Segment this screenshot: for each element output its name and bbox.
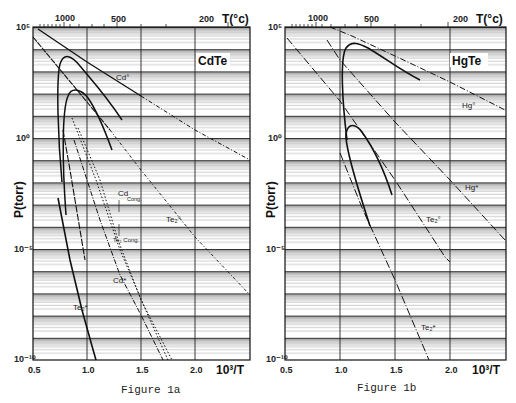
top-axis-label: T(°c): [222, 12, 249, 26]
x-axis-label: 10³/T: [472, 363, 501, 377]
figure-caption: Figure 1b: [357, 382, 416, 394]
label-te2-star: Te₂*: [421, 323, 436, 332]
top-tick-500: 500: [111, 14, 126, 24]
y-tick-1e-5: 10⁻⁵: [266, 244, 285, 254]
plot-area-grid: [285, 27, 506, 360]
y-tick-1e0: 10⁰: [16, 133, 30, 143]
top-tick-1000: 1000: [308, 13, 328, 23]
label-cd-star: Cd*: [113, 276, 126, 285]
label-te2-0: Te₂°: [166, 215, 181, 224]
chart-hgte: Hg° Hg* Te₂° Te₂* HgTe 1000 500 200 T(°c…: [264, 12, 506, 394]
top-tick-200: 200: [199, 14, 214, 24]
label-te2-cong: Te₂ Cong.: [113, 237, 140, 243]
figure-canvas: Cd° Cd Cong. Te₂ Cong. Te₂° Cd* Te₂* CdT…: [0, 0, 516, 403]
y-axis-label: P(torr): [12, 181, 26, 218]
y-axis-label: P(torr): [264, 181, 278, 218]
y-tick-1e5: 10⁵: [268, 22, 282, 32]
figure-caption: Figure 1a: [121, 384, 181, 396]
label-te2-0: Te₂°: [426, 215, 441, 224]
top-axis-label: T(°c): [476, 12, 503, 26]
label-cd0: Cd°: [116, 73, 129, 82]
x-tick-1.0: 1.0: [335, 365, 348, 375]
y-tick-1e-5: 10⁻⁵: [14, 244, 33, 254]
chart-cdte: Cd° Cd Cong. Te₂ Cong. Te₂° Cd* Te₂* CdT…: [12, 12, 250, 396]
x-tick-2.0: 2.0: [445, 365, 458, 375]
top-tick-500: 500: [364, 14, 379, 24]
x-tick-1.5: 1.5: [390, 365, 403, 375]
label-cd-cong-sub: Cong.: [127, 196, 142, 202]
chart-title: CdTe: [198, 54, 227, 68]
top-tick-200: 200: [453, 14, 468, 24]
y-tick-1e-10: 10⁻¹⁰: [266, 354, 288, 364]
x-tick-1.5: 1.5: [136, 365, 149, 375]
x-tick-1.0: 1.0: [82, 365, 95, 375]
x-axis-label: 10³/T: [216, 363, 245, 377]
x-tick-2.0: 2.0: [190, 365, 203, 375]
label-hg-star: Hg*: [465, 183, 478, 192]
y-tick-1e5: 10⁵: [16, 22, 30, 32]
label-te2-star: Te₂*: [73, 303, 88, 312]
label-hg0: Hg°: [462, 101, 475, 110]
x-tick-0.5: 0.5: [28, 365, 41, 375]
top-tick-1000: 1000: [55, 13, 75, 23]
y-tick-1e-10: 10⁻¹⁰: [14, 354, 36, 364]
x-tick-0.5: 0.5: [280, 365, 293, 375]
y-tick-1e0: 10⁰: [268, 133, 282, 143]
chart-title: HgTe: [452, 54, 481, 68]
